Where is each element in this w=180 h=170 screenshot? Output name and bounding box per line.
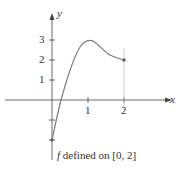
y-tick-label-3: 3 bbox=[39, 34, 45, 45]
endpoint-end bbox=[122, 58, 126, 62]
y-axis-arrow-icon bbox=[50, 13, 55, 20]
endpoint-start bbox=[50, 138, 54, 142]
caption-text: defined on [0, 2] bbox=[60, 149, 136, 161]
function-curve bbox=[52, 40, 124, 140]
x-tick-label-1: 1 bbox=[85, 105, 91, 116]
chart-caption: f defined on [0, 2] bbox=[57, 149, 136, 161]
function-graph bbox=[0, 0, 180, 170]
y-tick-label-1: 1 bbox=[39, 74, 45, 85]
y-axis-label: y bbox=[57, 8, 62, 19]
x-tick-label-2: 2 bbox=[121, 105, 127, 116]
x-axis-label: x bbox=[170, 94, 175, 105]
y-tick-label-2: 2 bbox=[39, 54, 45, 65]
